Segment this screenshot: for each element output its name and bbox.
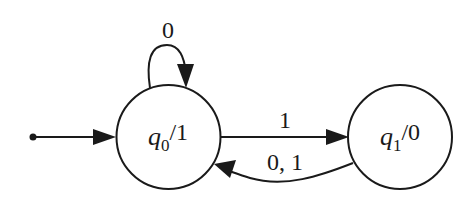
initial-arrowhead-icon xyxy=(93,129,116,145)
q1-to-q0-arrowhead-icon xyxy=(214,160,236,178)
state-q0: q0/1 xyxy=(117,85,221,189)
self-loop-arrowhead-icon xyxy=(177,64,194,88)
state-diagram: 0 1 0, 1 q0/1 q1/0 xyxy=(0,0,474,205)
initial-transition xyxy=(30,129,117,145)
state-q1: q1/0 xyxy=(348,85,452,189)
q1-to-q0-label: 0, 1 xyxy=(267,149,303,175)
transition-q1-q0: 0, 1 xyxy=(214,149,353,182)
state-q0-subscript: 0 xyxy=(161,136,170,155)
transition-q0-q0: 0 xyxy=(149,17,194,88)
state-q1-name: q xyxy=(380,122,393,151)
state-q1-subscript: 1 xyxy=(393,136,402,155)
state-q0-output: /1 xyxy=(169,119,188,145)
self-loop-label: 0 xyxy=(162,17,174,43)
state-q0-name: q xyxy=(148,122,161,151)
transition-q0-q1: 1 xyxy=(221,107,349,145)
q0-to-q1-arrowhead-icon xyxy=(326,129,349,145)
state-q1-output: /0 xyxy=(401,119,420,145)
q0-to-q1-label: 1 xyxy=(279,107,291,133)
